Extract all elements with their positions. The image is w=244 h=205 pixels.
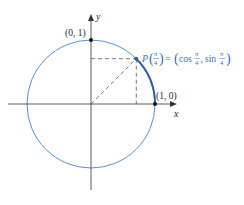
coord-close-paren: ) (226, 51, 231, 67)
point-p (134, 57, 138, 61)
point-top (89, 38, 93, 42)
cos-fn: cos (179, 54, 192, 64)
cos-frac-den: 4 (195, 59, 199, 66)
coord-comma: , (201, 54, 203, 64)
unit-circle-diagram: y x (0, 1) (1, 0) P ( π 4 ) = ( cos π 4 … (0, 0, 244, 205)
y-axis-arrow-icon (88, 14, 94, 21)
p-arg-den: 4 (154, 59, 158, 66)
y-axis-label: y (95, 11, 101, 22)
cos-frac-num: π (195, 50, 199, 57)
p-name: P (141, 53, 148, 64)
p-arg-num: π (154, 50, 158, 57)
point-right (153, 102, 157, 106)
sin-fn: sin (205, 54, 216, 64)
equals-sign: = (165, 53, 171, 64)
p-point-label: P ( π 4 ) = ( cos π 4 , sin π 4 ) (141, 50, 231, 67)
radius-dashed-line (91, 59, 136, 104)
x-axis-label: x (173, 108, 179, 119)
sin-frac-den: 4 (220, 59, 224, 66)
top-point-label: (0, 1) (65, 28, 86, 39)
right-point-label: (1, 0) (156, 91, 177, 102)
x-axis-arrow-icon (170, 101, 177, 107)
sin-frac-num: π (220, 50, 224, 57)
p-close-paren: ) (159, 51, 164, 67)
